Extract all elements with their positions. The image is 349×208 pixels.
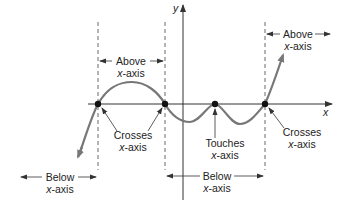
crosses-left-annotation: Crosses x-axis (102, 108, 162, 153)
above-left-annotation: Above x-axis (100, 55, 163, 79)
crosses-right-sublabel: x-axis (287, 138, 315, 150)
pointer-arrow-icon (102, 108, 117, 131)
crosses-right-annotation: Crosses x-axis (269, 108, 321, 150)
below-middle-label: Below (203, 170, 232, 182)
below-middle-sublabel: x-axis (202, 182, 230, 194)
zero-point-1 (95, 101, 101, 107)
touches-sublabel: x-axis (210, 149, 238, 161)
crosses-right-label: Crosses (283, 126, 322, 138)
above-left-sublabel: x-axis (116, 67, 144, 79)
pointer-arrow-icon (269, 108, 284, 128)
zero-point-4 (262, 101, 268, 107)
curve-end-arrow-left (78, 147, 82, 157)
touches-annotation: Touches x-axis (205, 109, 244, 161)
above-left-label: Above (116, 55, 146, 67)
x-axis-label: x (322, 106, 329, 118)
touches-label: Touches (205, 137, 244, 149)
above-right-annotation: Above x-axis (267, 28, 330, 52)
zero-point-3 (212, 101, 218, 107)
crosses-left-sublabel: x-axis (118, 141, 146, 153)
above-right-label: Above (283, 28, 313, 40)
above-right-sublabel: x-axis (283, 40, 311, 52)
below-middle-annotation: Below x-axis (167, 170, 263, 194)
zero-point-2 (162, 101, 168, 107)
polynomial-diagram: x y Above x-axis Above x-axis Crosses x-… (0, 0, 349, 208)
below-left-label: Below (46, 171, 75, 183)
below-left-annotation: Below x-axis (21, 171, 96, 195)
y-axis-label: y (172, 2, 179, 14)
crosses-left-label: Crosses (114, 129, 153, 141)
pointer-arrow-icon (148, 108, 162, 131)
below-left-sublabel: x-axis (45, 183, 73, 195)
